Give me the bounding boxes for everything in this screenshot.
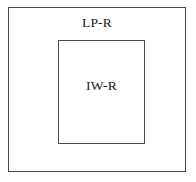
inner-region-label: IW-R bbox=[59, 79, 144, 93]
inner-region-iw-r: IW-R bbox=[58, 40, 145, 144]
outer-region-lp-r: LP-R IW-R bbox=[8, 7, 186, 172]
outer-region-label: LP-R bbox=[9, 16, 185, 30]
diagram-canvas: LP-R IW-R bbox=[0, 0, 196, 182]
